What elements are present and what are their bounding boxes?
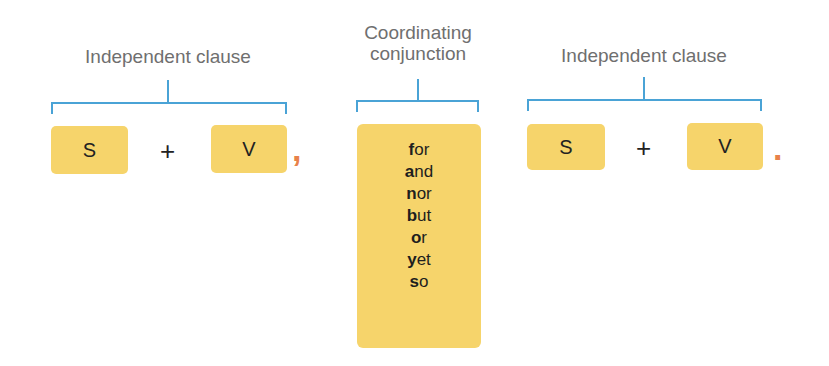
conjunction-bracket: [356, 100, 479, 112]
right-plus-sign: +: [636, 135, 651, 161]
conjunction-item-nor: nor: [357, 183, 481, 205]
conjunction-label-line1: Coordinating: [338, 22, 498, 43]
conjunction-item-so: so: [357, 271, 481, 293]
left-plus-sign: +: [160, 138, 175, 164]
conjunction-label: Coordinating conjunction: [338, 22, 498, 64]
left-subject-box: S: [51, 126, 128, 174]
right-clause-bracket: [527, 99, 762, 111]
conjunction-list: for and nor but or yet so: [357, 124, 481, 293]
conjunction-item-yet: yet: [357, 249, 481, 271]
conjunction-item-or: or: [357, 227, 481, 249]
conjunction-label-line2: conjunction: [338, 43, 498, 64]
left-verb-box: V: [211, 125, 287, 173]
conjunction-item-for: for: [357, 139, 481, 161]
right-subject-text: S: [559, 136, 572, 159]
conjunction-item-and: and: [357, 161, 481, 183]
conjunction-item-but: but: [357, 205, 481, 227]
right-verb-box: V: [687, 123, 763, 170]
period-punctuation: .: [773, 129, 782, 168]
left-clause-bracket: [51, 102, 287, 114]
left-verb-text: V: [242, 138, 255, 161]
right-subject-box: S: [527, 124, 605, 170]
right-clause-label: Independent clause: [534, 45, 754, 66]
left-subject-text: S: [83, 139, 96, 162]
right-verb-text: V: [718, 135, 731, 158]
left-clause-label: Independent clause: [58, 46, 278, 67]
conjunction-list-box: for and nor but or yet so: [357, 124, 481, 348]
comma-punctuation: ,: [292, 130, 301, 169]
